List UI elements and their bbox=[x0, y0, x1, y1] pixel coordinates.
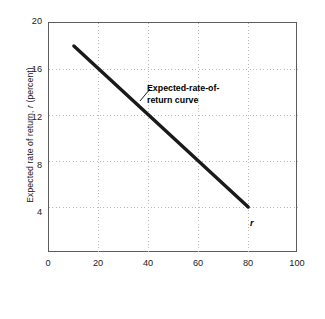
x-tick-label-0: 0 bbox=[35, 258, 61, 268]
plot-canvas bbox=[49, 23, 298, 253]
curve-annotation: Expected-rate-of- return curve bbox=[147, 83, 219, 106]
x-tick-label-40: 40 bbox=[135, 258, 161, 268]
curve-symbol-label: r bbox=[250, 218, 254, 228]
y-tick-label-12: 12 bbox=[20, 112, 42, 122]
expected-rate-of-return-curve bbox=[74, 46, 248, 207]
curve-annotation-line-1: Expected-rate-of- bbox=[147, 83, 219, 95]
y-tick-label-16: 16 bbox=[20, 64, 42, 74]
y-tick-label-8: 8 bbox=[20, 160, 42, 170]
top-caption bbox=[38, 0, 318, 4]
plot-area bbox=[48, 22, 297, 252]
y-tick-label-4: 4 bbox=[20, 207, 42, 217]
x-tick-label-60: 60 bbox=[185, 258, 211, 268]
y-tick-label-20: 20 bbox=[20, 16, 42, 26]
x-tick-label-20: 20 bbox=[85, 258, 111, 268]
x-tick-label-80: 80 bbox=[235, 258, 261, 268]
x-tick-label-100: 100 bbox=[284, 258, 310, 268]
expected-rate-of-return-chart: Expected rate of return, r (percent) 20 … bbox=[0, 0, 325, 319]
y-axis-title-symbol: r bbox=[25, 105, 35, 108]
curve-annotation-line-2: return curve bbox=[147, 95, 219, 107]
y-axis-title-prefix: Expected rate of return, bbox=[25, 108, 35, 203]
